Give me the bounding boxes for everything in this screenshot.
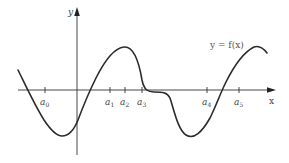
tick-labels: a0 a1 a2 a3 a4 a5 <box>40 97 243 108</box>
x-axis-arrow-icon <box>267 87 276 93</box>
y-axis-label: y <box>67 7 74 17</box>
x-axis-label: x <box>269 96 274 106</box>
function-label: y = f(x) <box>209 40 244 50</box>
tick-label-a3: a3 <box>137 97 146 108</box>
tick-label-a2: a2 <box>120 97 129 108</box>
tick-label-a0: a0 <box>40 97 49 108</box>
tick-label-a5: a5 <box>234 97 243 108</box>
function-curve <box>18 46 267 136</box>
y-axis-arrow-icon <box>74 7 80 16</box>
function-graph: y x a0 a1 a2 a3 a4 a5 y = f(x) <box>0 0 289 163</box>
tick-label-a1: a1 <box>105 97 114 108</box>
tick-label-a4: a4 <box>202 97 211 108</box>
